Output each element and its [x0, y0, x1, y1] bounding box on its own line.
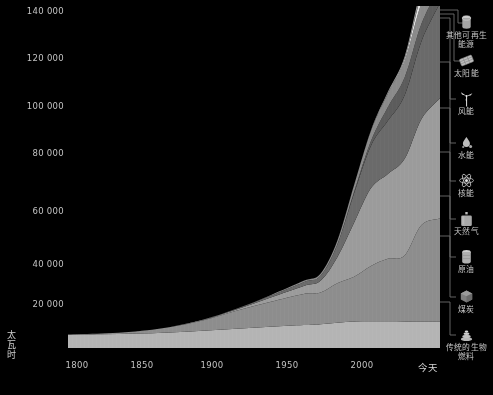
- x-tick-1900: 1900: [201, 360, 224, 370]
- legend: 其他可再生 能源 太阳能 风能 水能 核能: [440, 0, 493, 382]
- water-drop-icon: [440, 134, 493, 151]
- legend-item-traditional-biofuels[interactable]: 传统的生物 燃料: [440, 326, 493, 361]
- y-axis-title-char-1: 太: [2, 330, 20, 340]
- biofuel-pile-icon: [440, 326, 493, 343]
- y-tick-60000: 60 000: [20, 206, 64, 216]
- cylinder-icon: [440, 14, 493, 31]
- legend-label-hydro: 水能: [440, 152, 493, 161]
- legend-label-other-renewables: 其他可再生 能源: [440, 32, 493, 49]
- y-tick-40000: 40 000: [20, 259, 64, 269]
- legend-label-crude-oil: 原油: [440, 266, 493, 275]
- x-tick-1850: 1850: [131, 360, 154, 370]
- legend-label-traditional-biofuels: 传统的生物 燃料: [440, 344, 493, 361]
- legend-item-other-renewables[interactable]: 其他可再生 能源: [440, 14, 493, 49]
- legend-item-hydro[interactable]: 水能: [440, 134, 493, 161]
- y-axis-title-char-3: 时: [2, 350, 20, 360]
- coal-cube-icon: [440, 288, 493, 305]
- gas-canister-icon: [440, 210, 493, 227]
- stacked-area-plot: [68, 6, 440, 348]
- y-tick-20000: 20 000: [20, 299, 64, 309]
- legend-label-solar: 太阳能: [440, 70, 493, 79]
- legend-label-nuclear: 核能: [440, 190, 493, 199]
- solar-panel-icon: [440, 52, 493, 69]
- oil-barrel-icon: [440, 248, 493, 265]
- legend-item-wind[interactable]: 风能: [440, 90, 493, 117]
- legend-label-coal: 煤炭: [440, 306, 493, 315]
- legend-item-crude-oil[interactable]: 原油: [440, 248, 493, 275]
- y-tick-80000: 80 000: [20, 148, 64, 158]
- y-tick-100000: 100 000: [20, 101, 64, 111]
- legend-item-coal[interactable]: 煤炭: [440, 288, 493, 315]
- wind-turbine-icon: [440, 90, 493, 107]
- x-tick-1950: 1950: [276, 360, 299, 370]
- legend-item-nuclear[interactable]: 核能: [440, 172, 493, 199]
- x-tick-1800: 1800: [66, 360, 89, 370]
- legend-label-natural-gas: 天然气: [440, 228, 493, 237]
- legend-item-solar[interactable]: 太阳能: [440, 52, 493, 79]
- y-axis-title: 太 瓦 时: [2, 330, 20, 360]
- legend-label-wind: 风能: [440, 108, 493, 117]
- y-tick-140000: 140 000: [20, 6, 64, 16]
- x-tick-today: 今天: [418, 360, 439, 374]
- area-chart-svg: [68, 6, 440, 348]
- y-axis-title-char-2: 瓦: [2, 340, 20, 350]
- x-tick-2000: 2000: [351, 360, 374, 370]
- y-tick-120000: 120 000: [20, 53, 64, 63]
- atom-icon: [440, 172, 493, 189]
- legend-item-natural-gas[interactable]: 天然气: [440, 210, 493, 237]
- chart-root: 太 瓦 时 140 000 120 000 100 000 80 000 60 …: [0, 0, 493, 395]
